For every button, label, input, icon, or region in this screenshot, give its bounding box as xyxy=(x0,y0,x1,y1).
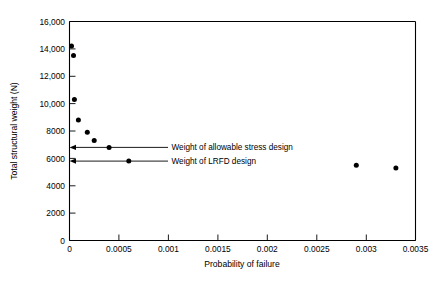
data-point xyxy=(71,53,76,58)
x-axis-title: Probability of failure xyxy=(204,259,280,269)
left-arrowhead-icon xyxy=(70,159,76,164)
reference-line-allowable-stress-design: Weight of allowable stress design xyxy=(70,143,294,152)
plot-frame xyxy=(70,22,416,241)
x-axis-ticks xyxy=(70,235,416,241)
data-point xyxy=(69,44,74,49)
scatter-plot: 16,000 14,000 12,000 10,000 8000 6000 40… xyxy=(0,0,444,292)
data-point xyxy=(393,165,398,170)
y-tick-label: 2000 xyxy=(46,208,65,218)
y-tick-label: 4000 xyxy=(46,181,65,191)
y-tick-label: 14,000 xyxy=(39,44,65,54)
left-arrowhead-icon xyxy=(70,145,76,150)
chart-figure: 16,000 14,000 12,000 10,000 8000 6000 40… xyxy=(0,0,444,292)
y-axis-title: Total structural weight (N) xyxy=(9,82,19,180)
x-tick-label: 0.0025 xyxy=(304,244,330,254)
x-axis-tick-labels: 0 0.0005 0.001 0.0015 0.002 0.0025 0.003… xyxy=(67,244,428,254)
data-point xyxy=(107,145,112,150)
x-tick-label: 0.0035 xyxy=(403,244,429,254)
y-axis-tick-labels: 16,000 14,000 12,000 10,000 8000 6000 40… xyxy=(39,17,65,246)
annotation-label-allowable-stress-design: Weight of allowable stress design xyxy=(172,143,294,152)
x-tick-label: 0.003 xyxy=(356,244,377,254)
reference-line-lrfd-design: Weight of LRFD design xyxy=(70,157,257,166)
x-tick-label: 0.001 xyxy=(158,244,179,254)
annotation-label-lrfd-design: Weight of LRFD design xyxy=(172,157,257,166)
data-point xyxy=(126,159,131,164)
data-point xyxy=(72,97,77,102)
x-tick-label: 0.002 xyxy=(257,244,278,254)
data-point xyxy=(354,163,359,168)
y-tick-label: 0 xyxy=(60,236,65,246)
data-point xyxy=(85,130,90,135)
y-tick-label: 16,000 xyxy=(39,17,65,27)
data-point xyxy=(92,138,97,143)
y-tick-label: 12,000 xyxy=(39,71,65,81)
x-tick-label: 0 xyxy=(67,244,72,254)
x-tick-label: 0.0015 xyxy=(205,244,231,254)
y-tick-label: 8000 xyxy=(46,126,65,136)
data-point xyxy=(76,117,81,122)
y-tick-label: 10,000 xyxy=(39,99,65,109)
x-tick-label: 0.0005 xyxy=(106,244,132,254)
y-tick-label: 6000 xyxy=(46,154,65,164)
